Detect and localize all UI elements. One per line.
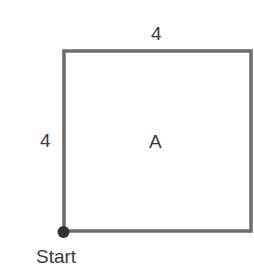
left-side-length-label: 4 <box>40 131 51 150</box>
start-label: Start <box>36 247 76 266</box>
region-label-a: A <box>149 132 162 151</box>
top-side-length-label: 4 <box>151 24 162 43</box>
start-dot <box>58 226 70 238</box>
diagram-canvas: 4 4 A Start <box>0 0 254 280</box>
square-figure <box>0 0 254 280</box>
